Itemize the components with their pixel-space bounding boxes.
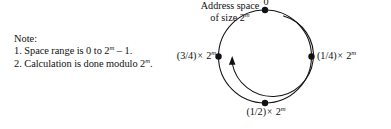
note-block: Note: 1. Space range is 0 to 2m – 1. 2. … xyxy=(14,33,174,70)
node-three-quarter-marker xyxy=(215,53,221,59)
ring-outer-circle xyxy=(219,10,312,103)
node-three-quarter-label: (3/4)× 2m xyxy=(166,50,216,61)
node-half-label: (1/2)× 2m xyxy=(228,106,304,117)
multiply-sign-icon: × xyxy=(196,51,203,61)
node-quarter-marker xyxy=(308,53,314,59)
node-quarter-exponent: m xyxy=(351,49,356,56)
node-zero-label: 0 xyxy=(261,0,271,7)
note-item-2-text-after: . xyxy=(150,58,153,69)
node-zero-marker xyxy=(262,7,268,13)
ring-diagram: 0 (3/4)× 2m (1/4)× 2m (1/2)× 2m Address … xyxy=(180,0,391,129)
address-space-ring-figure: Note: 1. Space range is 0 to 2m – 1. 2. … xyxy=(0,0,391,129)
node-quarter-label: (1/4)× 2m xyxy=(317,50,391,61)
node-half-fraction: (1/2) xyxy=(246,106,266,117)
node-quarter-fraction: (1/4) xyxy=(317,50,337,61)
note-heading: Note: xyxy=(14,33,174,45)
note-item-2-text-before: Calculation is done modulo 2 xyxy=(24,58,145,69)
multiply-sign-icon: × xyxy=(337,51,344,61)
note-item-2: 2. Calculation is done modulo 2m. xyxy=(14,58,174,70)
node-half-exponent: m xyxy=(281,105,286,112)
note-item-1-text-before: Space range is 0 to 2 xyxy=(24,45,109,56)
node-three-quarter-exponent: m xyxy=(211,49,216,56)
note-item-1-text-after: – 1. xyxy=(114,45,132,56)
node-three-quarter-fraction: (3/4) xyxy=(177,50,197,61)
note-item-1-number: 1. xyxy=(14,45,22,56)
note-item-2-number: 2. xyxy=(14,58,22,69)
ring-direction-arrowhead xyxy=(229,56,236,65)
